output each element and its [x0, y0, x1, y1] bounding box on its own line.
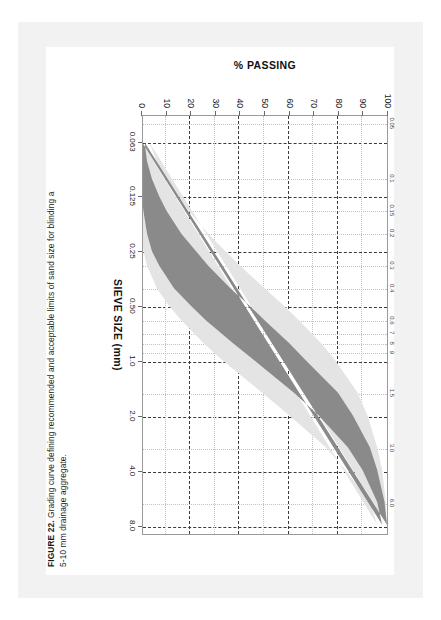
- grading-curve-chart: % PASSING SIEVE SIZE (mm) 0.0630.1250.25…: [80, 53, 398, 569]
- y-tick-mark: [190, 111, 191, 116]
- x-secondary-tick-label: 0.2: [389, 229, 395, 237]
- scanned-page: FIGURE 22. Grading curve defining recomm…: [18, 22, 423, 598]
- figure-caption-line2: 5-10 mm drainage aggregate.: [58, 47, 70, 567]
- plot-area: [142, 115, 388, 535]
- x-tick-mark: [138, 416, 142, 417]
- x-secondary-tick-label: 8: [389, 341, 395, 344]
- x-secondary-tick-label: 0.3: [389, 261, 395, 269]
- x-tick-mark: [138, 526, 142, 527]
- x-tick-mark: [138, 142, 142, 143]
- x-secondary-tick-label: 3.0: [389, 444, 395, 452]
- x-tick-mark: [138, 361, 142, 362]
- y-tick-mark: [289, 111, 290, 116]
- recommended-limits-band: [142, 143, 387, 525]
- grading-bands: [142, 116, 387, 534]
- x-tick-mark: [138, 196, 142, 197]
- x-tick-label: 4.0: [128, 465, 137, 476]
- x-tick-label: 0.125: [128, 186, 137, 206]
- y-tick-mark: [313, 111, 314, 116]
- figure-caption: FIGURE 22. Grading curve defining recomm…: [46, 47, 80, 567]
- y-tick-label: 70: [309, 98, 319, 108]
- x-secondary-tick-label: 6.0: [389, 499, 395, 507]
- x-tick-mark: [138, 306, 142, 307]
- y-tick-label: 50: [260, 98, 270, 108]
- y-tick-label: 10: [162, 98, 172, 108]
- y-tick-mark: [141, 111, 142, 116]
- x-tick-mark: [138, 251, 142, 252]
- y-tick-label: 30: [211, 98, 221, 108]
- figure-caption-line1: Grading curve defining recommended and a…: [46, 192, 56, 521]
- x-axis-title: SIEVE SIZE (mm): [112, 115, 124, 535]
- y-tick-mark: [362, 111, 363, 116]
- x-secondary-tick-label: 0.6: [389, 316, 395, 324]
- x-secondary-tick-label: 1.5: [389, 389, 395, 397]
- x-tick-label: 0.25: [128, 243, 137, 259]
- x-tick-label: 0.50: [128, 298, 137, 314]
- y-tick-mark: [239, 111, 240, 116]
- y-axis-title: % PASSING: [142, 59, 388, 71]
- y-tick-mark: [215, 111, 216, 116]
- y-tick-mark: [264, 111, 265, 116]
- y-tick-mark: [338, 111, 339, 116]
- plot-area-wrapper: 0.0630.1250.250.501.02.04.08.0 0.050.10.…: [142, 115, 388, 535]
- x-tick-label: 1.0: [128, 355, 137, 366]
- x-secondary-tick-label: 0.1: [389, 174, 395, 182]
- x-tick-label: 0.063: [128, 132, 137, 152]
- x-tick-mark: [138, 471, 142, 472]
- y-tick-label: 60: [285, 98, 295, 108]
- y-tick-mark: [166, 111, 167, 116]
- y-tick-mark: [387, 111, 388, 116]
- y-tick-label: 80: [334, 98, 344, 108]
- y-tick-label: 100: [383, 94, 393, 108]
- x-tick-label: 8.0: [128, 520, 137, 531]
- y-tick-label: 20: [186, 98, 196, 108]
- y-tick-label: 40: [235, 98, 245, 108]
- x-secondary-tick-label: 0.05: [389, 118, 395, 130]
- x-secondary-tick-label: 7: [389, 331, 395, 334]
- x-secondary-tick-label: 9: [389, 351, 395, 354]
- y-tick-label: 90: [358, 98, 368, 108]
- figure-number: FIGURE 22.: [46, 520, 56, 567]
- x-tick-label: 2.0: [128, 410, 137, 421]
- x-secondary-tick-label: 0.15: [389, 205, 395, 217]
- figure-panel: FIGURE 22. Grading curve defining recomm…: [46, 47, 394, 575]
- x-secondary-tick-label: 0.4: [389, 284, 395, 292]
- y-tick-label: 0: [137, 103, 147, 108]
